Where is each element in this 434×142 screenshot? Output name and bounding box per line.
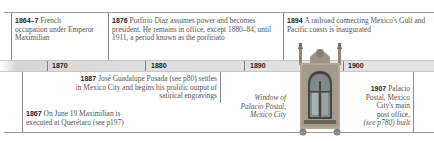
divider-line xyxy=(11,13,12,60)
photo-caption: Window of Palacio Postal, Mexico City xyxy=(240,94,286,120)
timeline-bar: 1870 1880 1890 1900 xyxy=(0,60,434,72)
event-text: Porfirio Díaz assumes power and becomes … xyxy=(112,16,271,42)
decade-tick xyxy=(47,61,48,71)
event-year: 1867 xyxy=(26,110,42,117)
divider-line xyxy=(283,13,284,60)
event-1907: 1907Palacio Postal, Mexico City's main p… xyxy=(350,85,410,128)
decade-label-1880: 1880 xyxy=(151,62,167,69)
event-1876: 1876Porfirio Díaz assumes power and beco… xyxy=(112,17,280,43)
event-1887: 1887José Guadalupe Posada (see p80) sett… xyxy=(75,75,217,101)
divider-line xyxy=(413,71,414,132)
divider-line xyxy=(22,71,23,132)
event-1864: 1864–7French occupation under Emperor Ma… xyxy=(15,17,95,43)
event-year: 1864–7 xyxy=(15,17,38,24)
event-text: A railroad connecting Mexico's Gulf and … xyxy=(287,16,425,34)
event-year: 1876 xyxy=(112,17,128,24)
top-rule xyxy=(4,12,434,13)
event-1867: 1867On June 19 Maximilian is executed at… xyxy=(26,110,136,127)
palacio-postal-window-image xyxy=(296,43,344,138)
divider-line xyxy=(220,71,221,103)
event-year: 1907 xyxy=(371,85,387,92)
decade-tick xyxy=(145,61,146,71)
event-text: José Guadalupe Posada (see p80) settles … xyxy=(76,74,217,100)
bottom-rule xyxy=(4,132,434,133)
event-year: 1887 xyxy=(81,75,97,82)
event-text: (see p780) built xyxy=(350,119,410,128)
event-year: 1894 xyxy=(287,17,303,24)
caption-line: Mexico City xyxy=(240,111,286,120)
decade-label-1890: 1890 xyxy=(250,62,266,69)
decade-label-1900: 1900 xyxy=(348,62,364,69)
divider-line xyxy=(108,13,109,60)
decade-label-1870: 1870 xyxy=(52,62,68,69)
event-1894: 1894A railroad connecting Mexico's Gulf … xyxy=(287,17,427,34)
event-text: Palacio xyxy=(388,84,410,93)
decade-tick xyxy=(244,61,245,71)
